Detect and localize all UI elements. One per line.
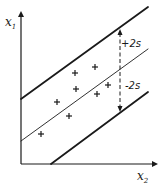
- arrow-up-icon: [118, 29, 123, 35]
- plus-marker-icon: [72, 70, 78, 76]
- plus-marker-icon: [105, 82, 111, 88]
- chart: x1 x2 +2s -2s: [0, 0, 165, 186]
- x-axis-label: x2: [137, 169, 149, 185]
- plus-marker-icon: [66, 113, 72, 119]
- minus-two-s-label: -2s: [125, 80, 140, 91]
- plus-two-s-label: +2s: [121, 38, 141, 49]
- data-points: [38, 64, 111, 137]
- plus-marker-icon: [54, 99, 60, 105]
- regression-line: [21, 49, 148, 141]
- lower-limit-line: [51, 92, 148, 164]
- plus-marker-icon: [94, 91, 100, 97]
- plus-marker-icon: [92, 64, 98, 70]
- y-axis-label: x1: [5, 15, 16, 31]
- plus-marker-icon: [38, 131, 44, 137]
- plus-marker-icon: [73, 86, 79, 92]
